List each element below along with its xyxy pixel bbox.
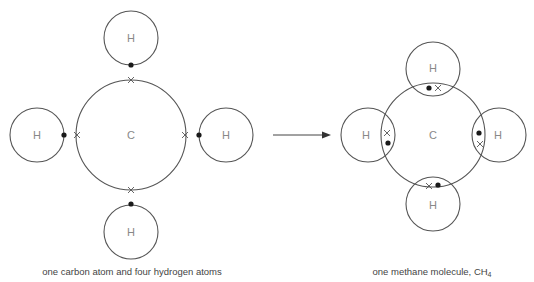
hydrogen-label: H — [494, 129, 502, 141]
hydrogen-atom-left: H — [10, 108, 67, 162]
hydrogen-atom-left: H — [341, 108, 395, 162]
hydrogen-atom-right: H — [472, 108, 526, 162]
carbon-label: C — [127, 129, 135, 141]
carbon-electron-cross-icon — [182, 132, 188, 138]
right-caption: one methane molecule, CH4 — [372, 266, 491, 278]
hydrogen-electron-dot-icon — [128, 201, 133, 206]
carbon-electron-cross-icon — [384, 130, 390, 136]
hydrogen-label: H — [33, 129, 41, 141]
carbon-atom: C — [76, 80, 186, 190]
hydrogen-label: H — [362, 129, 370, 141]
hydrogen-electron-dot-icon — [196, 132, 201, 137]
right-panel-methane-molecule: C H H H — [341, 42, 526, 278]
hydrogen-label: H — [222, 129, 230, 141]
left-caption: one carbon atom and four hydrogen atoms — [42, 266, 222, 277]
hydrogen-electron-dot-icon — [385, 140, 390, 145]
hydrogen-label: H — [127, 32, 135, 44]
right-caption-main: one methane molecule, CH — [372, 266, 487, 277]
hydrogen-electron-dot-icon — [435, 182, 440, 187]
methane-bonding-diagram: C H H H H — [0, 0, 534, 282]
carbon-electron-cross-icon — [74, 132, 80, 138]
carbon-electron-cross-icon — [426, 183, 432, 189]
hydrogen-atom-top: H — [406, 42, 460, 96]
hydrogen-label: H — [429, 199, 437, 211]
left-panel-separate-atoms: C H H H H — [10, 11, 253, 277]
hydrogen-electron-dot-icon — [61, 132, 66, 137]
hydrogen-atom-top: H — [104, 11, 158, 68]
hydrogen-electron-dot-icon — [426, 85, 431, 90]
carbon-atom: C — [381, 83, 485, 187]
hydrogen-atom-bottom: H — [104, 201, 158, 259]
hydrogen-atom-bottom: H — [406, 177, 460, 231]
carbon-label: C — [429, 129, 437, 141]
hydrogen-electron-dot-icon — [476, 130, 481, 135]
right-caption-subscript: 4 — [488, 271, 492, 278]
carbon-electron-cross-icon — [435, 85, 441, 91]
hydrogen-electron-dot-icon — [128, 62, 133, 67]
hydrogen-atom-right: H — [196, 108, 253, 162]
reaction-arrow-icon — [273, 132, 331, 139]
hydrogen-label: H — [127, 226, 135, 238]
hydrogen-label: H — [429, 62, 437, 74]
carbon-electron-cross-icon — [477, 141, 483, 147]
